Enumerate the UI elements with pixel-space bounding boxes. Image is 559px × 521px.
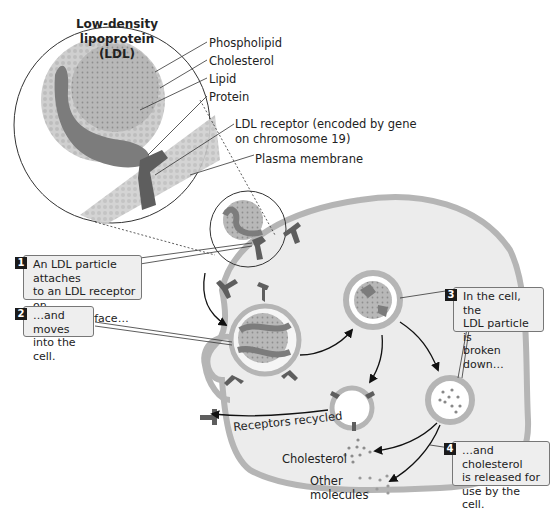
label-other-molecules-line2: molecules <box>310 488 368 502</box>
label-cholesterol-released: Cholesterol <box>282 452 347 466</box>
endosome <box>346 273 400 327</box>
ldl-title: Low-density lipoprotein (LDL) <box>62 17 172 62</box>
step-3-line: In the cell, the <box>463 290 538 317</box>
step-number-badge: 3 <box>445 289 457 301</box>
ldl-title-line1: Low-density <box>62 17 172 32</box>
step-2-line: …and moves <box>33 309 88 336</box>
step-1-line: An LDL particle attaches <box>33 258 136 285</box>
label-phospholipid: Phospholipid <box>209 36 282 50</box>
lysosome <box>428 378 472 422</box>
label-lipid: Lipid <box>209 72 236 86</box>
label-other-molecules-line1: Other <box>310 474 343 488</box>
step-1-callout: 1 An LDL particle attaches to an LDL rec… <box>23 255 142 300</box>
step-3-callout: 3 In the cell, the LDL particle is broke… <box>453 287 544 332</box>
label-protein: Protein <box>209 90 249 104</box>
label-plasma-membrane: Plasma membrane <box>255 152 363 166</box>
label-cholesterol: Cholesterol <box>209 54 274 68</box>
step-3-line: LDL particle is <box>463 317 538 344</box>
label-ldl-receptor-line2: on chromosome 19) <box>235 132 350 146</box>
ldl-title-line2: lipoprotein (LDL) <box>62 32 172 62</box>
step-4-line: is released for <box>462 471 544 485</box>
step-number-badge: 2 <box>15 308 27 320</box>
step-2-line: into the cell. <box>33 336 88 363</box>
step-2-callout: 2 …and moves into the cell. <box>23 306 94 337</box>
label-ldl-receptor-line1: LDL receptor (encoded by gene <box>235 117 417 131</box>
step-3-line: broken down… <box>463 344 538 371</box>
step-4-line: use by the cell. <box>462 485 544 512</box>
step-4-callout: 4 …and cholesterol is released for use b… <box>452 441 550 486</box>
step-4-line: …and cholesterol <box>462 444 544 471</box>
step-number-badge: 4 <box>444 443 456 455</box>
step-number-badge: 1 <box>15 257 27 269</box>
